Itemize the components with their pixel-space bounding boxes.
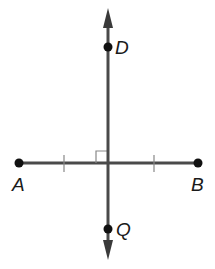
label-a: A bbox=[11, 174, 25, 195]
arrow-up-icon bbox=[103, 8, 113, 28]
point-b bbox=[194, 159, 203, 168]
point-a bbox=[15, 159, 24, 168]
label-b: B bbox=[191, 174, 204, 195]
point-d bbox=[104, 43, 113, 52]
right-angle-marker bbox=[96, 151, 108, 163]
geometry-diagram: D A B Q bbox=[0, 0, 215, 269]
point-q bbox=[104, 225, 113, 234]
label-d: D bbox=[115, 37, 129, 58]
label-q: Q bbox=[116, 219, 131, 240]
arrow-down-icon bbox=[103, 240, 113, 260]
